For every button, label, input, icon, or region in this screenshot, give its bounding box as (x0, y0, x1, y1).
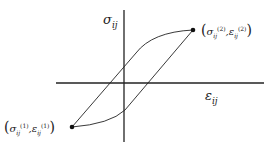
epsilon-sub: ij (37, 129, 41, 136)
sigma-sub: ij (16, 129, 20, 136)
x-axis-label: εij (205, 88, 218, 106)
point-top-label: (σij(2),εij(2)) (201, 22, 252, 39)
y-axis-label-sub: ij (112, 20, 118, 30)
point-bottom-label: (σij(1),εij(1)) (4, 119, 55, 136)
loading-curve (72, 30, 193, 127)
y-axis-label-base: σ (103, 12, 112, 27)
sigma-sup: (2) (217, 25, 226, 32)
epsilon-sub: ij (234, 32, 238, 39)
paren-close: ) (49, 119, 54, 135)
point-top-marker (191, 28, 196, 33)
paren-close: ) (246, 22, 251, 38)
y-axis-label: σij (103, 12, 118, 30)
sigma-sup: (1) (20, 122, 29, 129)
x-axis-label-base: ε (205, 88, 212, 103)
unloading-curve (72, 30, 193, 127)
point-bottom-marker (70, 125, 75, 130)
x-axis-label-sub: ij (212, 96, 218, 106)
sigma-sub: ij (213, 32, 217, 39)
